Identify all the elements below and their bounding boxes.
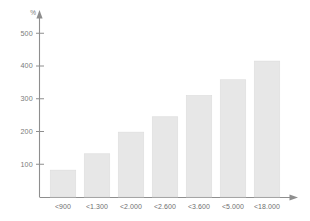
y-axis xyxy=(36,10,42,197)
bar xyxy=(254,61,280,197)
bar xyxy=(152,117,178,197)
bar xyxy=(84,154,110,197)
bars-group xyxy=(50,61,280,197)
bar xyxy=(220,80,246,197)
x-tick-label: <2.600 xyxy=(154,203,176,210)
x-tick-label: <1.300 xyxy=(86,203,108,210)
y-axis-arrow-icon xyxy=(36,10,42,19)
y-axis-unit-label: % xyxy=(30,9,36,16)
bar xyxy=(50,170,76,197)
x-tick-label: <900 xyxy=(55,203,71,210)
x-tick-labels: <900<1.300<2.000<2.600<3.600<5.000<18.00… xyxy=(55,203,280,210)
x-tick-label: <2.000 xyxy=(120,203,142,210)
y-tick-label-300: 300 xyxy=(20,94,33,103)
y-tick-label-200: 200 xyxy=(20,127,33,136)
y-tick-label-100: 100 xyxy=(20,160,33,169)
y-tick-label-400: 400 xyxy=(20,61,33,70)
x-tick-label: <18.000 xyxy=(254,203,280,210)
x-tick-label: <3.600 xyxy=(188,203,210,210)
bar-chart: % 100 200 300 400 500 <900<1.300<2.000<2… xyxy=(0,0,310,221)
bar xyxy=(118,132,144,197)
y-tick-labels: 100 200 300 400 500 xyxy=(20,29,33,169)
x-axis-arrow-icon xyxy=(290,194,299,200)
x-tick-label: <5.000 xyxy=(222,203,244,210)
y-tick-label-500: 500 xyxy=(20,29,33,38)
bar xyxy=(186,95,212,197)
chart-canvas: % 100 200 300 400 500 <900<1.300<2.000<2… xyxy=(0,0,310,221)
